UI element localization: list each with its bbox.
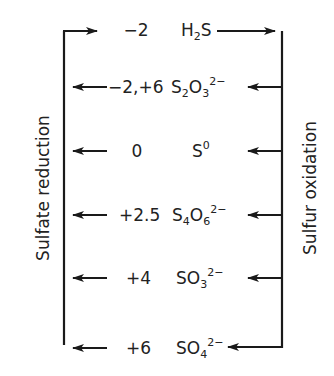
species-elemental-sulfur: S0 xyxy=(192,141,210,161)
oxidation-state-elemental-sulfur: 0 xyxy=(127,141,147,161)
oxidation-state-sulfite: +4 xyxy=(126,268,151,288)
oxidation-state-thiosulfate: −2,+6 xyxy=(108,77,164,97)
oxidation-state-h2s: −2 xyxy=(120,20,152,40)
species-sulfite: SO32− xyxy=(176,268,223,288)
species-thiosulfate: S2O32− xyxy=(171,77,225,97)
oxidation-state-sulfate: +6 xyxy=(126,338,151,358)
left-arrows xyxy=(73,87,107,348)
right-arrows xyxy=(248,87,282,278)
sulfur-oxidation-label: Sulfur oxidation xyxy=(300,103,320,273)
sulfate-reduction-label: Sulfate reduction xyxy=(33,103,53,273)
species-sulfate: SO42− xyxy=(176,338,223,358)
species-h2s: H2S xyxy=(181,20,212,40)
sulfate-reduction-bracket xyxy=(63,31,97,345)
sulfur-cycle-diagram: Sulfate reduction Sulfur oxidation −2 H2… xyxy=(0,0,334,376)
sulfur-oxidation-bracket xyxy=(217,31,283,348)
species-tetrathionate: S4O62− xyxy=(172,205,226,225)
oxidation-state-tetrathionate: +2.5 xyxy=(119,205,160,225)
